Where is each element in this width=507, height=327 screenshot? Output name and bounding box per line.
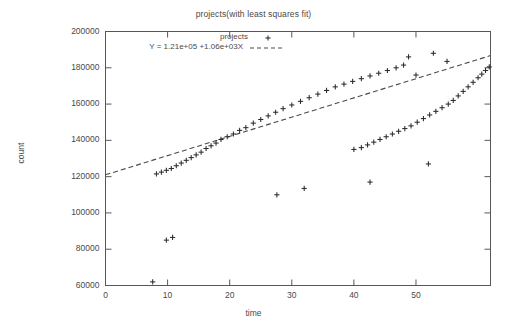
data-point <box>289 102 294 107</box>
data-point <box>365 142 370 147</box>
data-point <box>199 150 204 155</box>
data-point <box>298 99 303 104</box>
data-point <box>324 88 329 93</box>
data-point <box>471 80 476 85</box>
data-point <box>359 145 364 150</box>
data-point <box>164 238 169 243</box>
data-point <box>154 171 159 176</box>
data-point <box>208 143 213 148</box>
data-point <box>446 101 451 106</box>
data-point <box>218 137 223 142</box>
data-point <box>390 131 395 136</box>
data-point <box>371 140 376 145</box>
data-point <box>159 170 164 175</box>
data-point <box>273 110 278 115</box>
data-point <box>225 134 230 139</box>
data-point <box>475 75 480 80</box>
data-point <box>243 125 248 130</box>
data-point <box>483 68 488 73</box>
data-point <box>401 62 406 67</box>
data-point <box>367 179 372 184</box>
data-point <box>433 109 438 114</box>
data-point <box>385 68 390 73</box>
data-point <box>402 126 407 131</box>
data-point <box>408 123 413 128</box>
data-point <box>170 235 175 240</box>
data-point <box>280 106 285 111</box>
data-point <box>456 93 461 98</box>
data-point <box>341 82 346 87</box>
plot-area <box>0 0 507 327</box>
chart-container: projects(with least squares fit) count t… <box>0 0 507 327</box>
data-point <box>413 72 418 77</box>
data-point <box>302 186 307 191</box>
data-point <box>487 64 492 69</box>
least-squares-fit-line <box>106 56 491 175</box>
data-point <box>377 137 382 142</box>
data-point <box>415 120 420 125</box>
data-point <box>479 72 484 77</box>
data-point <box>421 116 426 121</box>
data-point <box>394 65 399 70</box>
data-point <box>174 163 179 168</box>
data-point <box>359 76 364 81</box>
data-point <box>184 158 189 163</box>
data-point <box>274 192 279 197</box>
data-point <box>426 161 431 166</box>
data-point <box>406 54 411 59</box>
plot-frame <box>106 32 491 286</box>
data-point <box>350 79 355 84</box>
data-point <box>307 95 312 100</box>
data-point <box>427 112 432 117</box>
data-point <box>376 71 381 76</box>
data-point <box>444 59 449 64</box>
data-point <box>461 89 466 94</box>
scatter-points <box>150 51 492 285</box>
data-point <box>351 147 356 152</box>
data-point <box>466 84 471 89</box>
data-point <box>164 168 169 173</box>
data-point <box>439 105 444 110</box>
legend-series-marker <box>265 35 270 40</box>
data-point <box>251 121 256 126</box>
data-point <box>169 166 174 171</box>
data-point <box>194 152 199 157</box>
data-point <box>203 146 208 151</box>
data-point <box>237 128 242 133</box>
data-point <box>431 51 436 56</box>
data-point <box>189 155 194 160</box>
data-point <box>315 91 320 96</box>
data-point <box>396 129 401 134</box>
data-point <box>179 160 184 165</box>
data-point <box>367 73 372 78</box>
data-point <box>150 279 155 284</box>
data-point <box>451 98 456 103</box>
data-point <box>266 113 271 118</box>
data-point <box>258 117 263 122</box>
data-point <box>333 84 338 89</box>
data-point <box>384 134 389 139</box>
